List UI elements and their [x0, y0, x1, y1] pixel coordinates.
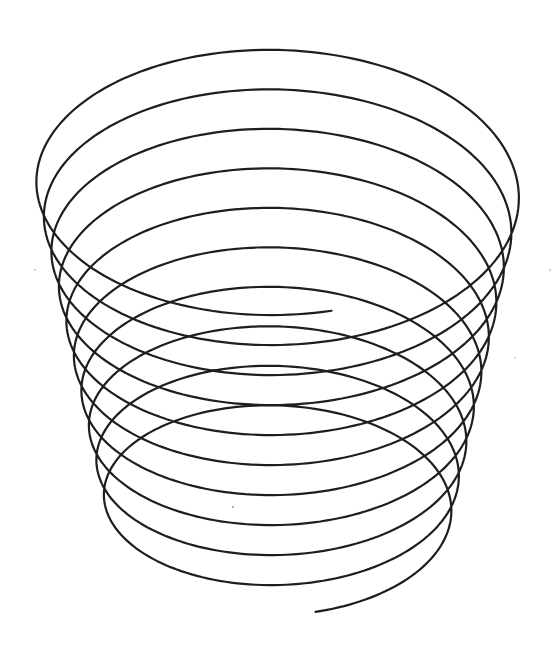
speck-dot [34, 269, 36, 271]
conical-helix-figure [0, 0, 554, 654]
speck-dot [514, 357, 515, 358]
speck-dot [232, 506, 234, 508]
speck-dot [549, 269, 551, 271]
